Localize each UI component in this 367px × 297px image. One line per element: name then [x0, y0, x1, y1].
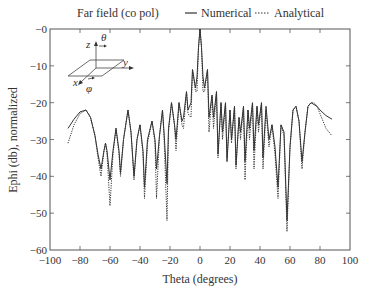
x-tick-label: 0 [197, 254, 203, 266]
phi-arrowhead-icon [92, 77, 95, 80]
y-tick-label: −10 [30, 60, 48, 72]
y-tick-label: −20 [30, 97, 48, 109]
analytical-series-line [68, 29, 332, 232]
chart-svg: Far field (co pol) Numerical Analytical … [0, 0, 367, 297]
x-tick-label: 40 [255, 254, 267, 266]
x-tick-label: 100 [342, 254, 359, 266]
far-field-chart: Far field (co pol) Numerical Analytical … [0, 0, 367, 297]
chart-title: Far field (co pol) [77, 6, 159, 20]
y-label: y [122, 56, 128, 68]
x-label: x [72, 76, 78, 88]
legend-analytical-label: Analytical [274, 6, 325, 20]
x-axis-label: Theta (degrees) [163, 272, 238, 286]
x-tick-label: −40 [131, 254, 149, 266]
theta-arrowhead-icon [104, 45, 107, 48]
numerical-series-line [68, 29, 332, 221]
y-axis-label: Ephi (db), normalized [6, 87, 20, 193]
z-label: z [85, 38, 91, 50]
x-tick-label: −80 [71, 254, 89, 266]
phi-label: φ [86, 82, 92, 94]
y-tick-label: −40 [30, 170, 48, 182]
x-tick-label: 80 [315, 254, 327, 266]
z-arrowhead-icon [94, 41, 98, 46]
x-tick-label: −60 [101, 254, 119, 266]
x-tick-label: 60 [285, 254, 297, 266]
y-tick-label: −30 [30, 134, 48, 146]
y-tick-label: −0 [35, 23, 47, 35]
y-tick-label: −60 [30, 244, 48, 256]
theta-label: θ [101, 31, 107, 43]
x-axis: −100−80−60−40−20020406080100 [39, 29, 359, 266]
legend-numerical-label: Numerical [201, 6, 252, 20]
y-axis: −0−10−20−30−40−50−60 [30, 23, 350, 256]
coordinate-system-inset: z θ y x φ [68, 31, 134, 94]
x-tick-label: −20 [161, 254, 179, 266]
x-axis-arrow [81, 68, 96, 82]
y-tick-label: −50 [30, 207, 48, 219]
y-arrowhead-icon [129, 66, 134, 70]
x-tick-label: 20 [225, 254, 237, 266]
